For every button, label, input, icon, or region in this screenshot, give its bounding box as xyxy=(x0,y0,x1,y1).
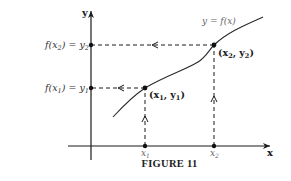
point-x1y1 xyxy=(143,86,148,91)
point-x2y2-label: (x2, y2) xyxy=(218,47,254,60)
y-axis-label: y xyxy=(81,7,89,18)
y1-label: f(x1) = y1 xyxy=(44,82,89,95)
figure-caption: FIGURE 11 xyxy=(0,158,291,169)
figure-11: y x y = f(x) f(x2) = y2 f(x1) = y1 (x1, … xyxy=(0,0,291,181)
function-curve xyxy=(113,17,263,117)
y2-label: f(x2) = y2 xyxy=(44,39,89,52)
x-axis-label: x xyxy=(267,147,274,158)
function-diagram: y x y = f(x) f(x2) = y2 f(x1) = y1 (x1, … xyxy=(0,0,291,181)
point-x1y1-label: (x1, y1) xyxy=(149,89,185,102)
caption-text: FIGURE 11 xyxy=(141,158,197,169)
curve-label: y = f(x) xyxy=(201,16,236,26)
point-x2y2 xyxy=(212,43,217,48)
dot-y1-axis xyxy=(89,86,93,90)
dot-y2-axis xyxy=(89,43,93,47)
